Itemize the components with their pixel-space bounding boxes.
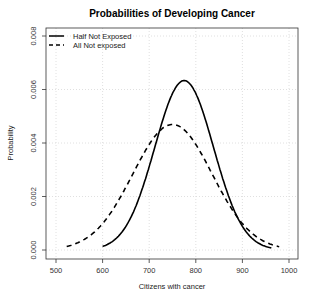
plot-area-border [46,28,298,259]
x-tick-label: 700 [143,266,156,275]
x-axis: 5006007008009001000 [50,259,298,275]
y-tick-label: 0.000 [29,241,38,260]
x-tick-label: 600 [96,266,109,275]
y-axis-label: Probability [6,125,15,160]
x-tick-label: 500 [50,266,63,275]
legend: Half Not Exposed All Not exposed [49,32,131,50]
legend-label-half-not-exposed: Half Not Exposed [73,32,131,41]
series-lines [67,81,280,248]
y-tick-label: 0.004 [29,134,38,153]
grid-lines [46,28,298,259]
x-tick-label: 800 [190,266,203,275]
y-tick-label: 0.006 [29,80,38,99]
series-line-half-not-exposed [103,81,272,248]
x-tick-label: 1000 [281,266,298,275]
x-tick-label: 900 [236,266,249,275]
y-tick-label: 0.002 [29,187,38,206]
legend-label-all-not-exposed: All Not exposed [73,41,126,50]
y-tick-label: 0.008 [29,27,38,46]
x-axis-label: Citizens with cancer [139,282,206,291]
y-axis: 0.0000.0020.0040.0060.008 [29,27,46,260]
chart-title: Probabilities of Developing Cancer [89,8,255,19]
chart: Probabilities of Developing Cancer 50060… [0,0,316,305]
